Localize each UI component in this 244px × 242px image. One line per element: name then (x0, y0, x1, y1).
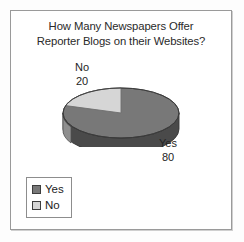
legend-swatch-no-icon (32, 201, 41, 210)
slice-label-yes-value: 80 (147, 151, 189, 165)
legend-item-no: No (32, 197, 64, 213)
legend-item-yes: Yes (32, 181, 64, 197)
legend-label-yes: Yes (45, 183, 64, 195)
figure-frame: How Many Newspapers Offer Reporter Blogs… (10, 10, 232, 230)
slice-label-no-value: 20 (61, 75, 103, 89)
slice-label-no-name: No (61, 61, 103, 75)
slice-label-no: No 20 (61, 61, 103, 88)
chart-legend: Yes No (26, 177, 72, 218)
legend-label-no: No (45, 199, 60, 211)
slice-label-yes: Yes 80 (147, 137, 189, 164)
slice-label-yes-name: Yes (147, 137, 189, 151)
figure-root: How Many Newspapers Offer Reporter Blogs… (0, 0, 244, 242)
legend-swatch-yes-icon (32, 185, 41, 194)
